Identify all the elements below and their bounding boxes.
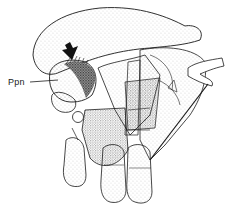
leg-left <box>63 138 86 187</box>
leg-right <box>127 145 152 204</box>
label-ppn: Ppn <box>8 77 25 87</box>
leg-middle <box>101 145 126 203</box>
specimen-illustration <box>0 0 234 209</box>
figure: Ppn <box>0 0 234 209</box>
